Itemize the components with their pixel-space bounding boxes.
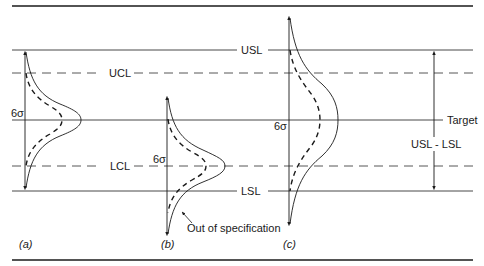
capability-diagram: USL UCL Target LCL LSL USL - LSL 6σ (a) …: [0, 0, 484, 266]
panel-a-caption: (a): [19, 238, 33, 250]
out-of-spec-annotation: Out of specification: [187, 222, 281, 234]
panel-c-distribution-curve: [290, 18, 338, 224]
panel-b: 6σ Out of specification (b): [153, 98, 281, 250]
panel-a-dashed-curve: [26, 73, 62, 166]
target-label: Target: [447, 114, 478, 126]
ucl-label: UCL: [109, 67, 131, 79]
panel-a-sigma-label: 6σ: [11, 107, 24, 119]
panel-c-dashed-curve: [290, 50, 320, 191]
spec-range-label: USL - LSL: [411, 138, 461, 150]
usl-label: USL: [241, 44, 262, 56]
panel-a: 6σ (a): [11, 52, 81, 250]
panel-c-sigma-label: 6σ: [274, 120, 287, 132]
lsl-label: LSL: [241, 185, 261, 197]
panel-c-caption: (c): [283, 238, 296, 250]
panel-b-sigma-label: 6σ: [153, 153, 166, 165]
lcl-label: LCL: [110, 160, 130, 172]
panel-c: 6σ (c): [274, 18, 338, 250]
panel-b-caption: (b): [161, 238, 175, 250]
